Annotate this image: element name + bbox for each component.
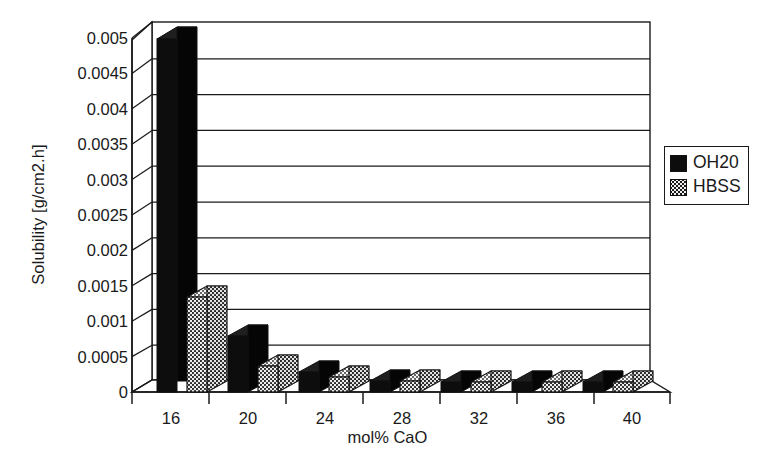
x-axis-title: mol% CaO [0,428,775,447]
x-axis-ticks [132,392,670,404]
legend-item-oh20: OH20 [670,151,741,175]
chart-figure: Solubility [g/cm2.h] 0 0.0005 0.001 0.00… [0,0,775,465]
legend-label: HBSS [693,178,741,196]
dotted-square-swatch-icon [670,179,687,196]
x-tick-label: 16 [162,410,180,427]
chart-legend: OH20 HBSS [664,146,749,205]
legend-item-hbss: HBSS [670,175,741,199]
black-square-swatch-icon [670,155,687,172]
x-tick-label: 28 [393,410,411,427]
bar-HBSS-16 [187,286,227,392]
chart-svg [0,0,775,465]
x-tick-label: 24 [316,410,334,427]
x-tick-label: 20 [239,410,257,427]
x-tick-label: 36 [547,410,565,427]
legend-label: OH20 [693,154,739,172]
chart-plot-area: Solubility [g/cm2.h] 0 0.0005 0.001 0.00… [0,0,775,465]
x-tick-label: 40 [623,410,641,427]
x-tick-label: 32 [470,410,488,427]
